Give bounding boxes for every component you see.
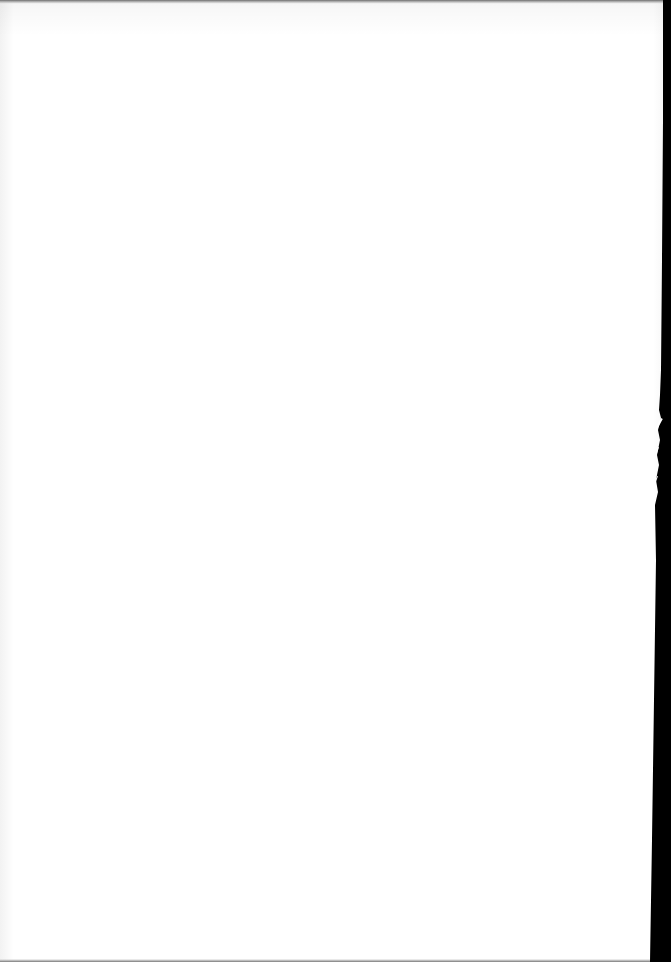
page-edge-shading — [0, 0, 671, 962]
blank-page — [0, 0, 671, 962]
top-edge-shadow — [0, 4, 671, 36]
right-black-backdrop — [663, 0, 671, 962]
scanned-document — [0, 0, 671, 962]
